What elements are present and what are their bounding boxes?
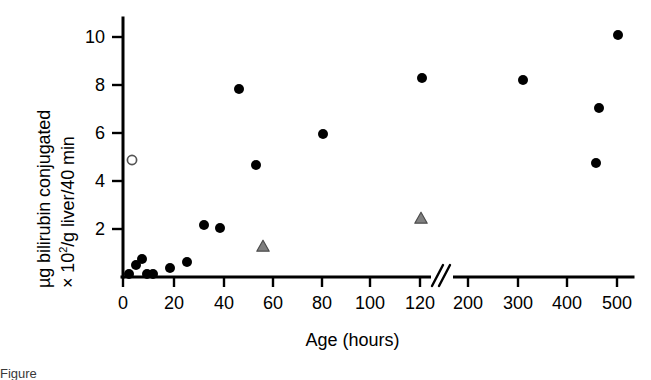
data-point-filled-circle	[234, 84, 244, 94]
x-tick-label-500: 500	[602, 293, 632, 314]
y-tick-label-2: 2	[75, 219, 105, 240]
data-point-filled-circle	[591, 158, 601, 168]
x-tick-label-120: 120	[405, 293, 435, 314]
data-point-filled-circle	[124, 269, 134, 279]
y-tick-label-6: 6	[75, 123, 105, 144]
data-point-filled-circle	[417, 73, 427, 83]
ticks-group	[112, 37, 617, 287]
data-point-filled-circle	[518, 75, 528, 85]
y-tick-label-4: 4	[75, 171, 105, 192]
data-point-triangle	[257, 240, 269, 251]
x-tick-label-80: 80	[312, 293, 332, 314]
x-tick-label-400: 400	[552, 293, 582, 314]
data-point-open-circle	[127, 155, 136, 164]
y-axis-label-line1: µg bilirubin conjugated	[34, 110, 55, 288]
y-axis-label-line2: × 102/g liver/40 min	[58, 136, 79, 288]
y-tick-label-8: 8	[75, 75, 105, 96]
data-point-filled-circle	[251, 160, 261, 170]
figure-caption-partial: Figure	[0, 366, 651, 380]
data-point-filled-circle	[148, 269, 158, 279]
axes-group	[122, 18, 633, 277]
data-point-triangle	[415, 212, 427, 223]
x-tick-label-60: 60	[263, 293, 283, 314]
data-point-filled-circle	[215, 223, 225, 233]
y-axis-label-exponent: 2	[57, 247, 69, 253]
x-tick-label-0: 0	[118, 293, 128, 314]
x-tick-label-20: 20	[164, 293, 184, 314]
data-point-filled-circle	[318, 129, 328, 139]
data-point-filled-circle	[613, 30, 623, 40]
data-point-filled-circle	[165, 263, 175, 273]
y-axis-label-line2-prefix: × 10	[58, 253, 78, 288]
figure-scatter-bilirubin: µg bilirubin conjugated × 102/g liver/40…	[0, 0, 651, 380]
data-markers-group	[124, 30, 623, 279]
x-axis-label: Age (hours)	[0, 330, 651, 351]
x-tick-label-200: 200	[453, 293, 483, 314]
data-point-filled-circle	[199, 220, 209, 230]
x-tick-label-40: 40	[214, 293, 234, 314]
x-axis-label-text: Age (hours)	[305, 330, 399, 351]
y-tick-label-10: 10	[75, 27, 105, 48]
data-point-filled-circle	[182, 257, 192, 267]
figure-caption-text: Figure	[0, 366, 37, 380]
x-tick-label-300: 300	[503, 293, 533, 314]
axis-break-icon	[431, 265, 453, 286]
data-point-filled-circle	[137, 254, 147, 264]
data-point-filled-circle	[594, 103, 604, 113]
x-tick-label-100: 100	[355, 293, 385, 314]
